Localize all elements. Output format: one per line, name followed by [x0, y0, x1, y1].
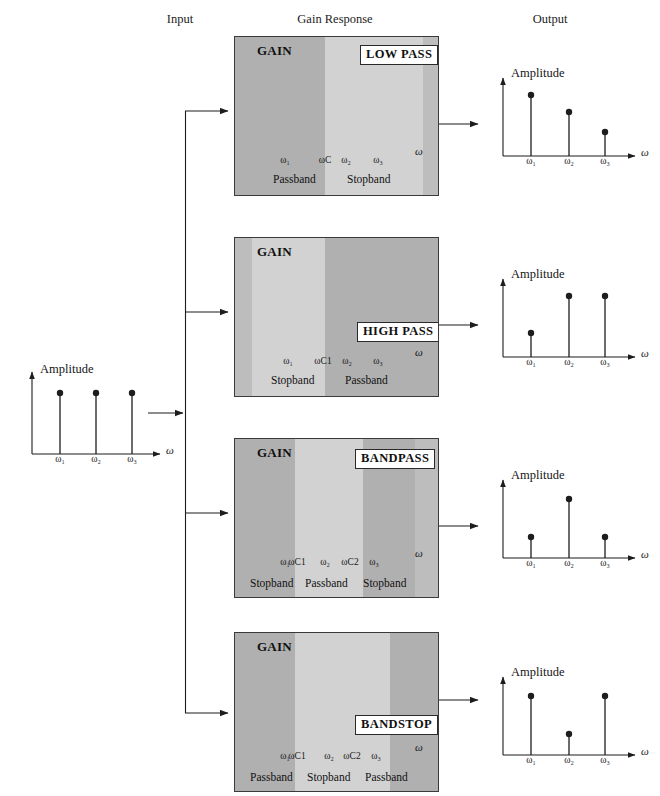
gain-axis-label: GAIN	[257, 639, 292, 655]
bandpass-tick-3: ω₃	[361, 557, 387, 567]
bandpass-band-stopband-left: Stopband	[250, 577, 293, 589]
output-tick-2: ω₂	[555, 755, 583, 765]
band-region-passband-right	[390, 633, 438, 791]
input-tick-3: ω₃	[118, 454, 146, 464]
output-amplitude-label: Amplitude	[511, 665, 564, 680]
bandpass-tick-2: ω₂	[313, 557, 337, 567]
highpass-band-stopband: Stopband	[271, 374, 314, 386]
output-stem-1	[528, 693, 534, 755]
band-region-stopband-left	[235, 439, 295, 597]
output-tick-2: ω₂	[555, 558, 583, 568]
bandstop-band-passband-left: Passband	[250, 771, 293, 783]
input-signal-plot: Amplitude ω₁ ω₂ ω₃ ω	[10, 358, 195, 468]
gain-panel-bandpass: GAIN BANDPASS ω₁ ωC1 ω₂ ωC2 ω₃ ω Stopban…	[234, 438, 439, 598]
output-stem-3	[602, 693, 608, 755]
filter-type-tag-bandpass: BANDPASS	[355, 449, 435, 469]
output-xaxis-label: ω	[637, 548, 653, 560]
output-stem-3	[602, 293, 608, 357]
output-tick-1: ω₁	[517, 558, 545, 568]
output-tick-1: ω₁	[517, 755, 545, 765]
filter-type-tag-bandstop: BANDSTOP	[355, 715, 438, 735]
output-xaxis-label: ω	[637, 347, 653, 359]
output-amplitude-label: Amplitude	[511, 66, 564, 81]
output-stem-1	[528, 534, 534, 558]
bandpass-band-stopband-right: Stopband	[363, 577, 406, 589]
input-tick-1: ω₁	[46, 454, 74, 464]
lowpass-xaxis-label: ω	[411, 145, 427, 157]
filter-type-tag-highpass: HIGH PASS	[357, 322, 439, 342]
gain-axis-label: GAIN	[257, 244, 292, 260]
output-tick-3: ω₃	[591, 755, 619, 765]
input-stem-1	[57, 390, 63, 454]
input-stem-2	[93, 390, 99, 454]
output-tick-3: ω₃	[591, 357, 619, 367]
band-region-passband	[325, 238, 438, 396]
highpass-tick-1: ω₁	[274, 356, 302, 366]
bandstop-xaxis-label: ω	[411, 741, 427, 753]
output-tick-2: ω₂	[555, 357, 583, 367]
band-region-passband	[295, 439, 363, 597]
bandstop-tick-3: ω₃	[363, 751, 389, 761]
output-plot-lowpass: Amplitude ω₁ ω₂ ω₃ ω	[483, 66, 660, 176]
band-region-passband	[235, 37, 325, 195]
output-stem-1	[528, 92, 534, 156]
output-plot-bandstop: Amplitude ω₁ ω₂ ω₃ ω	[483, 665, 660, 775]
output-amplitude-label: Amplitude	[511, 267, 564, 282]
lowpass-tick-3: ω₃	[364, 155, 392, 165]
input-xaxis-label: ω	[162, 444, 178, 456]
bandstop-tick-c1: ωC1	[282, 751, 312, 761]
bandpass-band-passband: Passband	[305, 577, 348, 589]
bandstop-band-stopband: Stopband	[307, 771, 350, 783]
bandstop-band-passband-right: Passband	[365, 771, 408, 783]
bandpass-xaxis-label: ω	[411, 547, 427, 559]
highpass-band-passband: Passband	[345, 374, 388, 386]
output-stem-3	[602, 534, 608, 558]
highpass-xaxis-label: ω	[411, 346, 427, 358]
gain-panel-lowpass: GAIN LOW PASS ω₁ ωC ω₂ ω₃ ω Passband Sto…	[234, 36, 439, 196]
gain-axis-label: GAIN	[257, 43, 292, 59]
lowpass-band-passband: Passband	[273, 173, 316, 185]
output-tick-2: ω₂	[555, 156, 583, 166]
output-xaxis-label: ω	[637, 146, 653, 158]
band-region-passband-left	[235, 633, 295, 791]
output-stem-2	[566, 496, 572, 558]
output-stem-1	[528, 330, 534, 357]
lowpass-tick-1: ω₁	[271, 155, 299, 165]
band-region-outer-left	[235, 238, 252, 396]
input-tick-2: ω₂	[82, 454, 110, 464]
gain-axis-label: GAIN	[257, 445, 292, 461]
output-xaxis-label: ω	[637, 745, 653, 757]
filter-type-tag-lowpass: LOW PASS	[360, 45, 438, 65]
lowpass-band-stopband: Stopband	[347, 173, 390, 185]
bandpass-tick-c1: ωC1	[282, 557, 312, 567]
output-tick-1: ω₁	[517, 156, 545, 166]
highpass-tick-2: ω₂	[336, 356, 358, 366]
input-amplitude-label: Amplitude	[40, 362, 93, 377]
output-tick-3: ω₃	[591, 156, 619, 166]
input-stem-3	[129, 390, 135, 454]
band-region-stopband	[295, 633, 390, 791]
highpass-tick-c1: ωC1	[307, 356, 339, 366]
highpass-tick-3: ω₃	[364, 356, 392, 366]
lowpass-tick-2: ω₂	[335, 155, 357, 165]
output-amplitude-label: Amplitude	[511, 468, 564, 483]
output-stem-2	[566, 293, 572, 357]
output-plot-bandpass: Amplitude ω₁ ω₂ ω₃ ω	[483, 468, 660, 578]
band-region-stopband	[252, 238, 325, 396]
output-stem-3	[602, 129, 608, 156]
output-tick-1: ω₁	[517, 357, 545, 367]
output-plot-highpass: Amplitude ω₁ ω₂ ω₃ ω	[483, 267, 660, 377]
output-stem-2	[566, 109, 572, 156]
gain-panel-highpass: GAIN HIGH PASS ω₁ ωC1 ω₂ ω₃ ω Stopband P…	[234, 237, 439, 397]
gain-panel-bandstop: GAIN BANDSTOP ω₁ ωC1 ω₂ ωC2 ω₃ ω Passban…	[234, 632, 439, 792]
output-stem-2	[566, 731, 572, 755]
output-tick-3: ω₃	[591, 558, 619, 568]
